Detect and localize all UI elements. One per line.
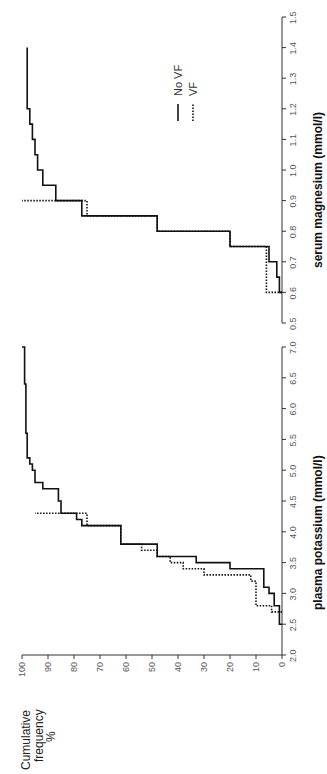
legend-no-vf-label: No VF: [172, 65, 184, 96]
potassium-panel: 2.02.53.03.54.04.55.05.56.06.57.0: [22, 341, 298, 662]
value-tick-label: 6.0: [288, 403, 298, 416]
value-tick-label: 0.5: [288, 317, 298, 330]
svg-text:Cumulative: Cumulative: [19, 710, 33, 770]
value-tick-label: 4.0: [288, 526, 298, 539]
value-tick-label: 4.5: [288, 495, 298, 508]
y-axis-title: Cumulative frequency %: [19, 709, 58, 770]
figure: Cumulative frequency % 01020304050607080…: [0, 0, 327, 774]
frequency-tick-label: 60: [121, 662, 131, 672]
magnesium-axis-title: serum magnesium (mmol/l): [311, 112, 325, 268]
value-tick-label: 7.0: [288, 341, 298, 354]
value-tick-label: 1.3: [288, 73, 298, 86]
frequency-tick-label: 10: [251, 662, 261, 672]
frequency-tick-label: 0: [277, 662, 287, 667]
value-tick-label: 0.6: [288, 287, 298, 300]
value-tick-label: 2.5: [288, 619, 298, 632]
vf-curve: [35, 513, 282, 612]
frequency-tick-label: 70: [95, 662, 105, 672]
value-tick-label: 5.0: [288, 465, 298, 478]
value-tick-label: 2.0: [288, 649, 298, 662]
legend-vf-label: VF: [187, 82, 199, 96]
frequency-tick-label: 20: [225, 662, 235, 672]
frequency-tick-label: 100: [17, 662, 27, 677]
no-vf-curve: [22, 347, 282, 624]
value-tick-label: 5.5: [288, 434, 298, 447]
value-tick-label: 0.7: [288, 256, 298, 269]
frequency-tick-label: 40: [173, 662, 183, 672]
potassium-axis-title: plasma potassium (mmol/l): [311, 455, 325, 610]
frequency-tick-label: 30: [199, 662, 209, 672]
value-tick-label: 1.4: [288, 42, 298, 55]
value-tick-label: 0.9: [288, 195, 298, 208]
frequency-tick-label: 80: [69, 662, 79, 672]
frequency-tick-label: 90: [43, 662, 53, 672]
frequency-tick-label: 50: [147, 662, 157, 672]
value-tick-label: 3.0: [288, 588, 298, 601]
frequency-axis: 0102030405060708090100: [17, 655, 287, 677]
vf-curve: [22, 201, 282, 293]
value-tick-label: 0.8: [288, 226, 298, 239]
value-tick-label: 1.1: [288, 134, 298, 147]
svg-text:%: %: [44, 731, 58, 742]
value-tick-label: 1.5: [288, 11, 298, 24]
legend: No VF VF: [172, 65, 199, 121]
value-tick-label: 1.0: [288, 164, 298, 177]
magnesium-panel: 0.50.60.70.80.91.01.11.21.31.41.5: [22, 11, 298, 330]
value-tick-label: 6.5: [288, 372, 298, 385]
value-tick-label: 3.5: [288, 557, 298, 570]
no-vf-curve: [27, 48, 282, 293]
value-tick-label: 1.2: [288, 103, 298, 116]
